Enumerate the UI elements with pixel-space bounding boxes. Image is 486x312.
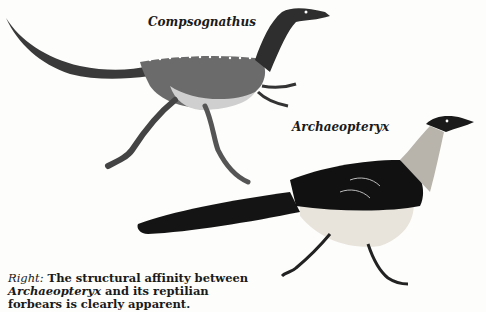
archaeopteryx-label: Archaeopteryx [292,120,389,134]
caption-lead: Right: [8,271,44,285]
figure-caption: Right: The structural affinity between A… [8,272,258,311]
caption-genus: Archaeopteryx [8,284,101,298]
compsognathus-figure [6,8,330,182]
compsognathus-label: Compsognathus [148,15,256,29]
caption-text-1: The structural affinity between [44,271,249,285]
archaeopteryx-figure [137,116,474,284]
illustration [0,0,486,312]
